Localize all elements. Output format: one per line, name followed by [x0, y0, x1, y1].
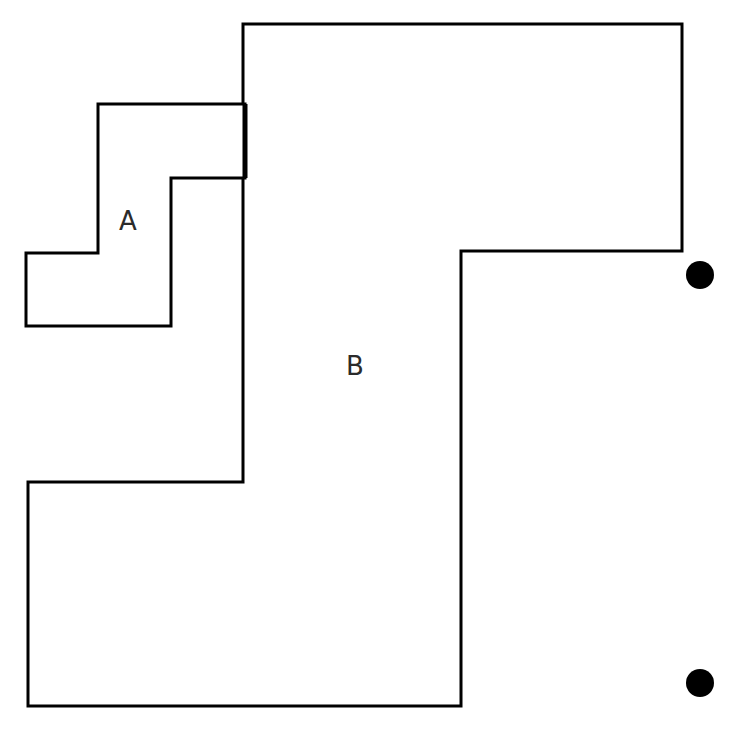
dot-lower-marker[interactable] [686, 669, 714, 697]
figure-canvas: A B [0, 0, 740, 738]
region-b-label: B [346, 351, 364, 381]
geometry-figure: A B [0, 0, 740, 738]
region-a-label: A [119, 206, 137, 236]
dot-upper-marker[interactable] [686, 261, 714, 289]
